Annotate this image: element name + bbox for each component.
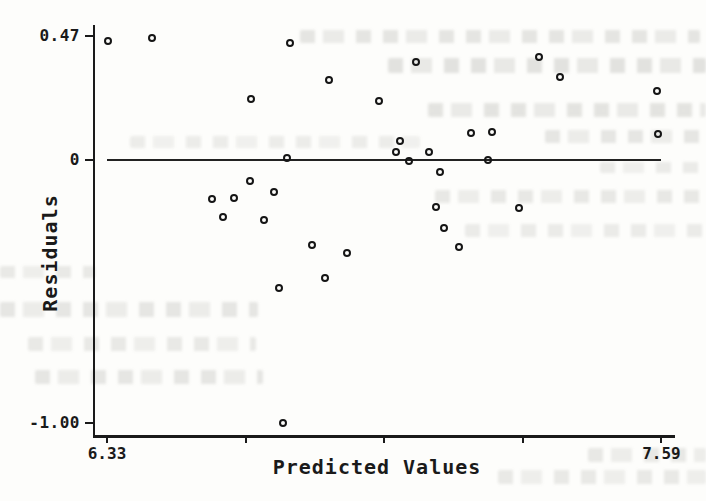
data-point	[515, 204, 523, 212]
data-point	[375, 97, 383, 105]
data-point	[325, 76, 333, 84]
data-point	[556, 73, 564, 81]
data-point	[653, 87, 661, 95]
x-tick-label: 7.59	[631, 444, 691, 463]
data-point	[392, 148, 400, 156]
data-point	[396, 137, 404, 145]
data-point	[440, 224, 448, 232]
residual-plot-figure: 0.47 0 -1.00 6.33 7.59 Predicted Values …	[0, 0, 706, 501]
x-tick-label: 6.33	[77, 444, 137, 463]
data-point	[208, 195, 216, 203]
data-point	[343, 249, 351, 257]
x-axis-label: Predicted Values	[227, 455, 527, 479]
data-point	[283, 154, 291, 162]
data-point	[308, 241, 316, 249]
data-point	[488, 128, 496, 136]
data-point	[148, 34, 156, 42]
data-point	[279, 419, 287, 427]
x-tick-mark	[522, 436, 524, 443]
data-point	[247, 95, 255, 103]
y-tick-label: 0.47	[0, 26, 80, 45]
y-tick-mark	[85, 35, 94, 37]
data-point	[219, 213, 227, 221]
data-point	[425, 148, 433, 156]
data-point	[405, 157, 413, 165]
data-point	[286, 39, 294, 47]
data-point	[275, 284, 283, 292]
y-tick-mark	[85, 422, 94, 424]
data-point	[270, 188, 278, 196]
y-axis-line	[93, 25, 95, 437]
data-point	[260, 216, 268, 224]
data-point	[654, 130, 662, 138]
x-tick-mark	[245, 436, 247, 443]
data-point	[467, 129, 475, 137]
y-axis-label: Residuals	[38, 153, 60, 353]
zero-reference-line	[107, 159, 661, 161]
data-point	[484, 156, 492, 164]
data-point	[104, 37, 112, 45]
x-tick-mark	[383, 436, 385, 443]
x-tick-mark	[106, 436, 108, 443]
data-point	[436, 168, 444, 176]
data-point	[246, 177, 254, 185]
data-point	[535, 53, 543, 61]
y-tick-mark	[85, 159, 94, 161]
data-point	[432, 203, 440, 211]
plot-area	[0, 0, 706, 501]
data-point	[321, 274, 329, 282]
data-point	[455, 243, 463, 251]
data-point	[230, 194, 238, 202]
x-tick-mark	[660, 436, 662, 443]
data-point	[412, 58, 420, 66]
y-tick-label: -1.00	[0, 413, 80, 432]
